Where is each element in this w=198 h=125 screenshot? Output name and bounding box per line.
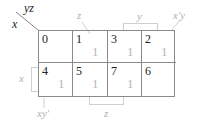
z-bottom-bracket	[89, 97, 124, 105]
cell-value: 1	[92, 44, 99, 60]
kmap-cell-0: 0	[39, 31, 73, 63]
y-top-label: y	[137, 10, 142, 22]
cell-index: 5	[76, 64, 82, 79]
row-variable-label: x	[12, 17, 17, 32]
kmap-cell-3: 3 1	[108, 31, 142, 63]
xyp-bottom-label: xy'	[37, 107, 49, 119]
x-left-label: x	[19, 72, 24, 84]
cell-index: 4	[42, 64, 48, 79]
cell-value: 1	[127, 44, 134, 60]
cell-index: 3	[111, 32, 117, 47]
cell-index: 2	[145, 32, 151, 47]
y-bracket	[123, 23, 158, 30]
cell-value: 1	[92, 76, 99, 92]
xpy-top-label: x'y	[173, 9, 185, 21]
z-top-label: z	[77, 9, 81, 21]
kmap-cell-1: 1 1	[73, 31, 108, 63]
cell-value: 1	[58, 76, 65, 92]
cell-value: 1	[161, 44, 168, 60]
kmap-cell-7: 7 1	[108, 63, 142, 96]
cell-value: 1	[127, 76, 134, 92]
z-bottom-label: z	[104, 107, 108, 119]
cell-index: 7	[111, 64, 117, 79]
cell-index: 1	[76, 32, 82, 47]
kmap-cell-6: 6	[142, 63, 176, 96]
x-bracket	[31, 67, 38, 92]
karnaugh-map-grid: 0 1 1 3 1 2 1 4 1 5 1 7 1 6	[38, 30, 175, 97]
kmap-cell-5: 5 1	[73, 63, 108, 96]
kmap-cell-4: 4 1	[39, 63, 73, 96]
cell-index: 6	[145, 64, 151, 79]
kmap-cell-2: 2 1	[142, 31, 176, 63]
cell-index: 0	[42, 32, 48, 47]
col-variables-label: yz	[24, 1, 34, 16]
